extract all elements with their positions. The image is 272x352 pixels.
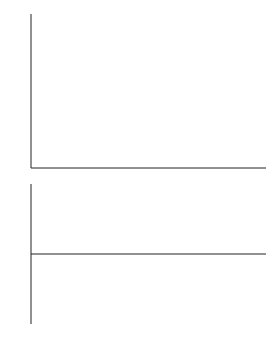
top-panel: [31, 14, 266, 168]
bottom-panel: [31, 184, 266, 324]
figure: [0, 0, 272, 352]
